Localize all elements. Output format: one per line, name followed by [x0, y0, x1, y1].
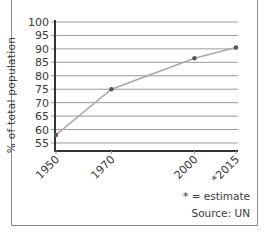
y-tick-label: 70: [35, 97, 49, 110]
line-chart: 556065707580859095100195019702000*2015: [0, 0, 265, 238]
y-tick-label: 75: [35, 83, 49, 96]
x-tick-label: *2015: [209, 153, 242, 186]
source-note: Source: UN: [192, 207, 250, 219]
data-line: [56, 48, 236, 135]
y-tick-label: 60: [35, 124, 49, 137]
y-tick-label: 80: [35, 70, 49, 83]
y-tick-label: 65: [35, 110, 49, 123]
x-tick-label: 1950: [33, 153, 62, 182]
data-point: [54, 133, 58, 137]
y-tick-label: 95: [35, 29, 49, 42]
data-point: [109, 87, 113, 91]
data-point: [234, 45, 238, 49]
y-tick-label: 100: [28, 16, 49, 29]
y-tick-label: 55: [35, 137, 49, 150]
data-point: [192, 56, 196, 60]
x-tick-label: 2000: [172, 153, 201, 182]
estimate-note: * = estimate: [183, 190, 250, 202]
y-tick-label: 90: [35, 43, 49, 56]
x-tick-label: 1970: [89, 153, 118, 182]
y-tick-label: 85: [35, 56, 49, 69]
